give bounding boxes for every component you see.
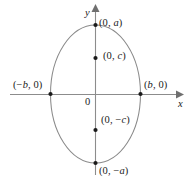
label-left-vertex: (−b, 0) <box>13 80 42 91</box>
label-lower-focus-prefix: (0, − <box>101 114 121 125</box>
point-right-vertex <box>138 92 142 96</box>
ellipse-diagram-canvas <box>0 0 192 183</box>
label-upper-focus-suffix: ) <box>122 50 126 61</box>
label-bottom-vertex-prefix: (0, − <box>99 165 119 176</box>
origin-label: 0 <box>85 97 90 108</box>
label-top-vertex: (0, a) <box>99 18 122 29</box>
point-top-vertex <box>93 23 97 27</box>
point-lower-focus <box>93 128 97 132</box>
point-upper-focus <box>93 56 97 60</box>
ellipse-figure: x y 0 (0, a) (0, c) (−b, 0) (b, 0) (0, −… <box>0 0 192 183</box>
label-left-vertex-prefix: (− <box>13 79 23 90</box>
label-lower-focus: (0, −c) <box>101 115 130 126</box>
label-right-vertex: (b, 0) <box>144 80 167 91</box>
x-axis-label: x <box>178 99 183 110</box>
label-right-vertex-suffix: , 0) <box>153 79 167 90</box>
y-axis-label: y <box>85 8 90 19</box>
label-upper-focus-prefix: (0, <box>103 50 117 61</box>
point-left-vertex <box>48 92 52 96</box>
label-bottom-vertex: (0, −a) <box>99 166 128 177</box>
y-axis-arrowhead <box>92 4 100 12</box>
label-bottom-vertex-suffix: ) <box>125 165 129 176</box>
label-lower-focus-suffix: ) <box>126 114 130 125</box>
label-left-vertex-suffix: , 0) <box>28 79 42 90</box>
label-upper-focus: (0, c) <box>103 51 126 62</box>
label-top-vertex-suffix: ) <box>119 17 123 28</box>
label-top-vertex-prefix: (0, <box>99 17 113 28</box>
point-bottom-vertex <box>93 161 97 165</box>
